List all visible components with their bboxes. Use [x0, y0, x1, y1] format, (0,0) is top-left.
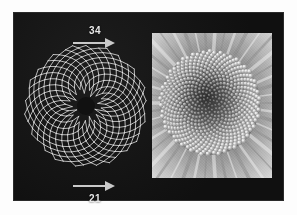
- parastichy-count-label-top: 34: [75, 25, 115, 36]
- flower-head-photograph: [152, 33, 272, 178]
- parastichy-count-label-bottom: 21: [75, 193, 115, 204]
- lattice-center-disc: [77, 97, 95, 115]
- figure-dark-plate: 34 21: [13, 12, 284, 201]
- flower-photo-panel: [152, 33, 272, 178]
- figure-root: 34 21: [0, 0, 297, 215]
- arrow-shaft: [73, 185, 107, 187]
- spiral-lattice-panel: 34 21: [17, 12, 153, 201]
- arrow-head: [105, 181, 115, 191]
- phyllotaxis-lattice-diagram: [22, 40, 150, 172]
- direction-arrow-bottom-icon: [73, 180, 119, 191]
